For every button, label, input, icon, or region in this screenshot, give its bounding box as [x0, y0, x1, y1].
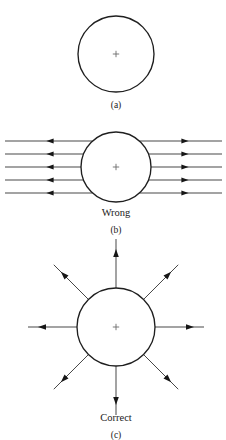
arrowhead-left-2: [46, 164, 53, 169]
arrowhead-left-3: [46, 177, 53, 182]
arrowhead-left-4: [46, 190, 53, 195]
radial-field-line-225: [54, 355, 89, 390]
radial-field-line-45: [144, 265, 179, 300]
panel-c: Correct (c): [28, 239, 204, 440]
arrowhead-right-2: [181, 164, 188, 169]
radial-arrowhead-90: [113, 249, 119, 257]
panel-c-label: (c): [111, 430, 122, 440]
panel-b: Wrong (b): [5, 132, 222, 236]
radial-field-line-135: [54, 265, 89, 300]
panel-b-label: (b): [110, 225, 121, 236]
radial-arrowhead-180: [38, 324, 46, 330]
arrowhead-right-4: [181, 190, 188, 195]
panel-c-caption: Correct: [100, 412, 132, 423]
radial-arrowhead-270: [113, 397, 119, 405]
panel-a-label: (a): [111, 100, 122, 111]
arrowhead-left-0: [46, 138, 53, 143]
arrowhead-right-3: [181, 177, 188, 182]
arrowhead-right-0: [181, 138, 188, 143]
field-lines-figure: (a) Wrong (b) Correct (c): [0, 0, 226, 440]
radial-field-line-315: [144, 355, 179, 390]
arrowhead-left-1: [46, 151, 53, 156]
panel-b-caption: Wrong: [102, 207, 131, 218]
radial-arrowhead-0: [186, 324, 194, 330]
arrowhead-right-1: [181, 151, 188, 156]
panel-a: (a): [78, 16, 154, 111]
figure-root: (a) Wrong (b) Correct (c): [0, 0, 226, 440]
